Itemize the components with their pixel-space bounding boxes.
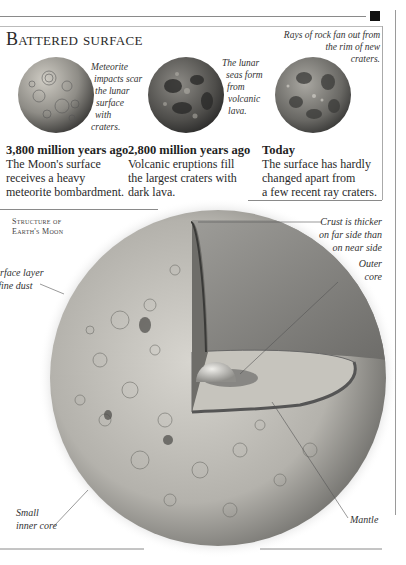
surface-layer-leader bbox=[40, 284, 64, 294]
label-outer-core: Outer core bbox=[330, 257, 382, 283]
label-line: on near side bbox=[280, 241, 382, 254]
structure-title-line: Structure of bbox=[12, 217, 63, 227]
label-mantle: Mantle bbox=[350, 513, 378, 526]
label-line: core bbox=[330, 270, 382, 283]
label-inner-core: Small inner core bbox=[16, 506, 57, 532]
structure-title: Structure of Earth's Moon bbox=[12, 217, 63, 237]
label-line: Small bbox=[16, 506, 57, 519]
inner-core-leader bbox=[54, 490, 88, 526]
label-crust: Crust is thicker on far side than on nea… bbox=[280, 215, 382, 254]
label-line: of fine dust bbox=[0, 279, 44, 292]
label-line: inner core bbox=[16, 519, 57, 532]
label-line: Crust is thicker bbox=[280, 215, 382, 228]
label-line: Mantle bbox=[350, 513, 378, 526]
label-surface-layer: Surface layer of fine dust bbox=[0, 266, 44, 292]
structure-title-line: Earth's Moon bbox=[12, 227, 63, 237]
label-line: on far side than bbox=[280, 228, 382, 241]
label-line: Surface layer bbox=[0, 266, 44, 279]
label-line: Outer bbox=[330, 257, 382, 270]
